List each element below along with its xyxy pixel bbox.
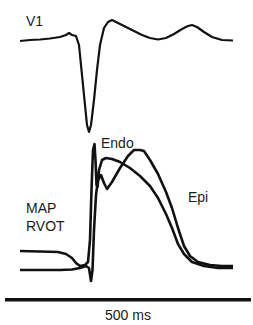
v1-trace xyxy=(20,20,233,132)
epi-label: Epi xyxy=(188,190,208,204)
rvot-label: RVOT xyxy=(26,219,65,233)
scale-bar-label: 500 ms xyxy=(105,308,151,322)
v1-label: V1 xyxy=(26,14,43,28)
scale-bar xyxy=(5,298,251,302)
ecg-map-figure xyxy=(0,0,253,325)
map-label: MAP xyxy=(26,201,56,215)
endo-label: Endo xyxy=(101,136,134,150)
